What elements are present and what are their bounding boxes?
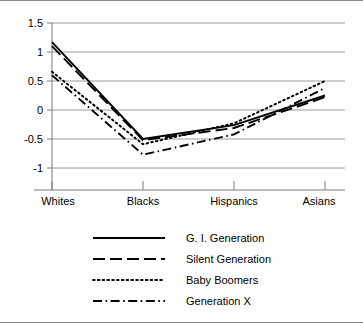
y-tick-label: 1.5: [28, 17, 43, 29]
legend-label-baby-boomers: Baby Boomers: [186, 274, 259, 286]
series-line-g-i-generation: [52, 42, 325, 139]
y-tick-label: -1: [33, 162, 43, 174]
y-tick-label: 0: [37, 104, 43, 116]
x-axis-tick-labels: WhitesBlacksHispanicsAsians: [41, 195, 336, 207]
series-line-silent-generation: [52, 46, 325, 140]
chart-figure: 1.510.50-0.5-1 WhitesBlacksHispanicsAsia…: [0, 0, 363, 323]
legend-label-generation-x: Generation X: [186, 295, 251, 307]
data-series-group: [52, 42, 325, 155]
y-axis-tick-labels: 1.510.50-0.5-1: [24, 17, 43, 174]
x-tick-label-asians: Asians: [302, 195, 336, 207]
legend-label-silent-generation: Silent Generation: [186, 253, 271, 265]
chart-legend: G. I. GenerationSilent GenerationBaby Bo…: [93, 232, 271, 307]
x-tick-label-hispanics: Hispanics: [210, 195, 258, 207]
y-tick-label: 0.5: [28, 75, 43, 87]
x-tick-label-whites: Whites: [41, 195, 75, 207]
y-tick-label: -0.5: [24, 133, 43, 145]
line-chart: 1.510.50-0.5-1 WhitesBlacksHispanicsAsia…: [0, 1, 363, 323]
gridlines-group: [52, 23, 345, 168]
legend-label-g-i-generation: G. I. Generation: [186, 232, 264, 244]
y-tick-label: 1: [37, 46, 43, 58]
x-tick-label-blacks: Blacks: [127, 195, 160, 207]
